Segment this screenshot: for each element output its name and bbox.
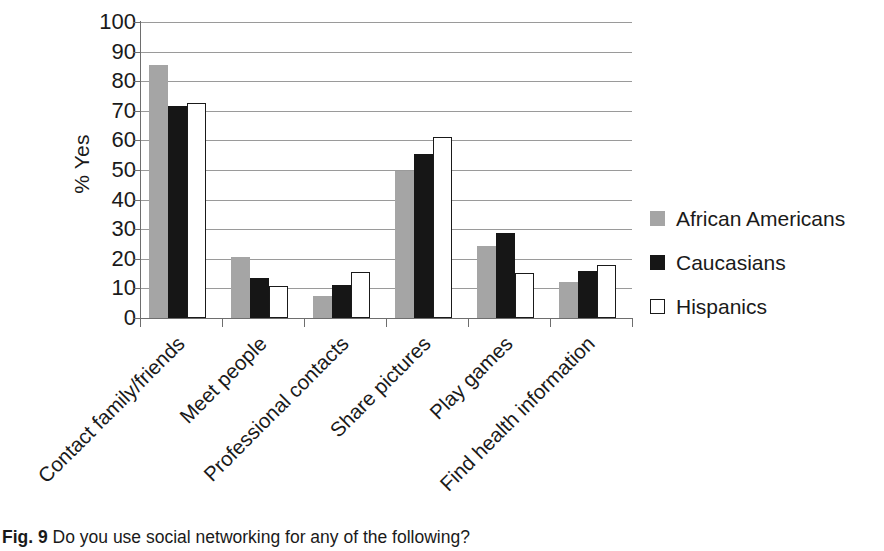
x-axis-tick-mark <box>222 318 223 327</box>
chart-plot: % Yes 1009080706050403020100 Contact fam… <box>0 0 884 500</box>
bar <box>597 265 616 318</box>
bar <box>313 296 332 318</box>
bar <box>414 154 433 318</box>
y-axis-tick-mark <box>133 22 141 23</box>
bar <box>578 271 597 318</box>
legend-item: African Americans <box>650 208 880 229</box>
y-axis-tick-label: 10 <box>44 277 136 299</box>
legend-swatch-icon <box>650 255 665 270</box>
y-axis-tick-label: 40 <box>44 189 136 211</box>
x-axis-tick-mark <box>386 318 387 327</box>
y-axis-tick-label: 60 <box>44 129 136 151</box>
y-axis-tick-mark <box>133 200 141 201</box>
bar <box>395 171 414 318</box>
bar <box>477 246 496 318</box>
x-axis-tick-mark <box>468 318 469 327</box>
bar <box>332 285 351 318</box>
y-axis-tick-mark <box>133 140 141 141</box>
y-axis-tick-mark <box>133 52 141 53</box>
bar <box>559 282 578 318</box>
bar <box>351 272 370 318</box>
x-axis-tick-mark <box>304 318 305 327</box>
y-axis-tick-mark <box>133 81 141 82</box>
y-axis-tick-labels: 1009080706050403020100 <box>44 0 136 330</box>
y-axis-tick-label: 20 <box>44 248 136 270</box>
y-axis-tick-label: 30 <box>44 218 136 240</box>
bar <box>168 106 187 318</box>
bar <box>149 65 168 318</box>
bar <box>231 257 250 318</box>
caption-text: Do you use social networking for any of … <box>53 527 470 547</box>
bar <box>515 273 534 318</box>
caption-label: Fig. 9 <box>2 527 48 547</box>
bar <box>250 278 269 318</box>
y-axis-tick-label: 70 <box>44 100 136 122</box>
chart-legend: African AmericansCaucasiansHispanics <box>650 208 880 340</box>
legend-item: Hispanics <box>650 296 880 317</box>
y-axis-tick-mark <box>133 259 141 260</box>
y-axis-tick-mark <box>133 288 141 289</box>
bar <box>187 103 206 318</box>
x-axis-category-labels: Contact family/friendsMeet peopleProfess… <box>0 322 660 502</box>
legend-label: Caucasians <box>676 252 786 273</box>
legend-swatch-icon <box>650 211 665 226</box>
y-axis-tick-label: 50 <box>44 159 136 181</box>
y-axis-tick-mark <box>133 170 141 171</box>
x-axis-tick-mark <box>140 318 141 327</box>
x-axis-tick-mark <box>550 318 551 327</box>
bar <box>433 137 452 318</box>
y-axis-tick-label: 100 <box>44 11 136 33</box>
legend-label: Hispanics <box>676 296 767 317</box>
y-axis-tick-label: 90 <box>44 41 136 63</box>
legend-label: African Americans <box>676 208 845 229</box>
bar <box>269 286 288 318</box>
y-axis-tick-mark <box>133 111 141 112</box>
legend-swatch-icon <box>650 299 665 314</box>
legend-item: Caucasians <box>650 252 880 273</box>
x-axis-tick-mark <box>632 318 633 327</box>
y-axis-tick-mark <box>133 229 141 230</box>
figure-caption: Fig. 9 Do you use social networking for … <box>2 527 882 547</box>
bar <box>496 233 515 318</box>
y-axis-tick-label: 80 <box>44 70 136 92</box>
bar-series-group <box>140 22 632 318</box>
